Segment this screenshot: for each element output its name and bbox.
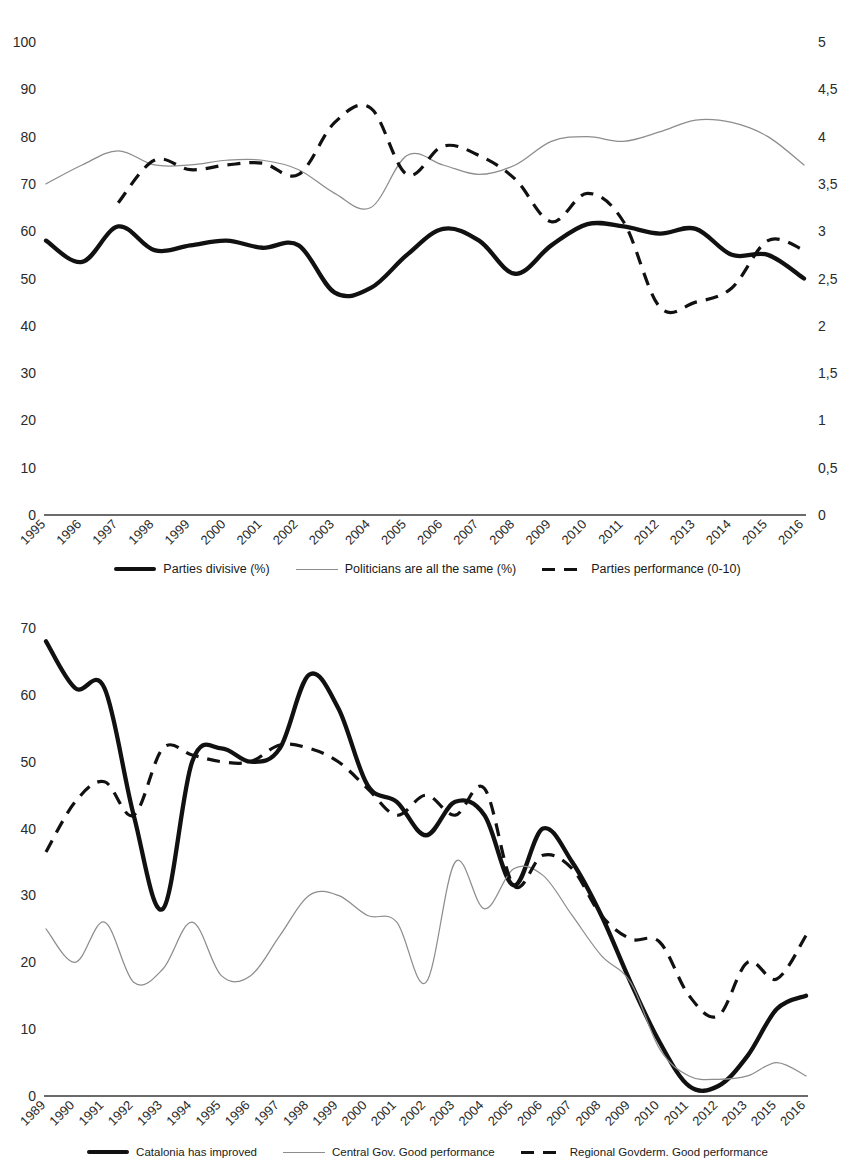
- x-axis-tick-label: 2003: [306, 517, 337, 548]
- series-line: [46, 641, 806, 1090]
- x-axis-tick-label: 2011: [595, 517, 625, 547]
- x-axis-tick-label: 1989: [17, 1098, 48, 1129]
- y-axis-tick-label: 20: [20, 954, 36, 970]
- x-axis-tick-label: 2000: [198, 517, 229, 548]
- x-axis-tick-label: 2011: [661, 1098, 691, 1128]
- series-line: [46, 860, 806, 1079]
- x-axis-tick-label: 2006: [414, 517, 445, 548]
- x-axis-tick-label: 1991: [76, 1098, 107, 1129]
- x-axis-tick-label: 2005: [378, 517, 409, 548]
- x-axis-tick-label: 2013: [667, 517, 698, 548]
- x-axis-tick-label: 1996: [222, 1098, 253, 1129]
- legend-swatch-dashed-icon: [521, 1151, 563, 1154]
- y2-axis-tick-label: 1: [818, 412, 826, 428]
- legend-item[interactable]: Politicians are all the same (%): [296, 562, 517, 576]
- party-attitudes-plot: 010203040506070809010000,511,522,533,544…: [0, 0, 855, 595]
- y-axis-tick-label: 70: [20, 176, 36, 192]
- x-axis-tick-label: 2001: [368, 1098, 399, 1129]
- x-axis-tick-label: 2010: [631, 1098, 662, 1129]
- x-axis-tick-label: 1997: [251, 1098, 282, 1129]
- x-axis-tick-label: 2012: [631, 517, 662, 548]
- legend-item[interactable]: Parties divisive (%): [114, 562, 269, 576]
- legend-item[interactable]: Regional Govderm. Good performance: [521, 1146, 768, 1158]
- legend-swatch-thin-icon: [296, 569, 338, 570]
- x-axis-tick-label: 1990: [46, 1098, 77, 1129]
- government-performance-legend: Catalonia has improvedCentral Gov. Good …: [0, 1146, 855, 1158]
- x-axis-tick-label: 2002: [270, 517, 301, 548]
- x-axis-tick-label: 2006: [514, 1098, 545, 1129]
- legend-label: Parties performance (0-10): [591, 562, 740, 576]
- x-axis-tick-label: 1996: [53, 517, 84, 548]
- legend-swatch-thick-icon: [87, 1150, 129, 1154]
- y2-axis-tick-label: 2: [818, 318, 826, 334]
- y-axis-tick-label: 50: [20, 271, 36, 287]
- legend-swatch-dashed-icon: [542, 568, 584, 571]
- x-axis-tick-label: 2010: [558, 517, 589, 548]
- party-attitudes-chart: 010203040506070809010000,511,522,533,544…: [0, 0, 855, 595]
- legend-label: Central Gov. Good performance: [332, 1146, 495, 1158]
- y-axis-tick-label: 10: [20, 1021, 36, 1037]
- y-axis-tick-label: 100: [13, 34, 37, 50]
- x-axis-tick-label: 2002: [397, 1098, 428, 1129]
- y2-axis-tick-label: 4,5: [818, 81, 838, 97]
- x-axis-tick-label: 1992: [105, 1098, 136, 1129]
- legend-swatch-thick-icon: [114, 567, 156, 571]
- x-axis-tick-label: 2008: [572, 1098, 603, 1129]
- y-axis-tick-label: 60: [20, 223, 36, 239]
- x-axis-tick-label: 1997: [89, 517, 120, 548]
- x-axis-tick-label: 1993: [134, 1098, 165, 1129]
- y2-axis-tick-label: 5: [818, 34, 826, 50]
- y2-axis-tick-label: 0,5: [818, 460, 838, 476]
- x-axis-tick-label: 1999: [161, 517, 192, 548]
- x-axis-tick-label: 1998: [280, 1098, 311, 1129]
- x-axis-tick-label: 2007: [450, 517, 481, 548]
- series-line: [46, 119, 804, 209]
- legend-label: Catalonia has improved: [136, 1146, 257, 1158]
- x-axis-tick-label: 2000: [339, 1098, 370, 1129]
- x-axis-tick-label: 2007: [543, 1098, 574, 1129]
- series-line: [46, 744, 806, 1017]
- y2-axis-tick-label: 3: [818, 223, 826, 239]
- y-axis-tick-label: 70: [20, 620, 36, 636]
- legend-item[interactable]: Catalonia has improved: [87, 1146, 257, 1158]
- legend-label: Regional Govderm. Good performance: [570, 1146, 768, 1158]
- y-axis-tick-label: 80: [20, 129, 36, 145]
- figure-page: 010203040506070809010000,511,522,533,544…: [0, 0, 855, 1173]
- x-axis-tick-label: 1995: [17, 517, 48, 548]
- series-line: [118, 105, 804, 313]
- x-axis-tick-label: 1999: [309, 1098, 340, 1129]
- legend-swatch-thin-icon: [283, 1152, 325, 1153]
- x-axis-tick-label: 2014: [703, 517, 734, 548]
- legend-item[interactable]: Parties performance (0-10): [542, 562, 740, 576]
- x-axis-tick-label: 2001: [234, 517, 265, 548]
- y2-axis-tick-label: 3,5: [818, 176, 838, 192]
- legend-label: Parties divisive (%): [163, 562, 269, 576]
- y2-axis-tick-label: 0: [818, 507, 826, 523]
- y2-axis-tick-label: 1,5: [818, 365, 838, 381]
- y-axis-tick-label: 10: [20, 460, 36, 476]
- y2-axis-tick-label: 4: [818, 129, 826, 145]
- y2-axis-tick-label: 2,5: [818, 271, 838, 287]
- legend-label: Politicians are all the same (%): [345, 562, 517, 576]
- x-axis-tick-label: 2008: [486, 517, 517, 548]
- x-axis-tick-label: 2016: [775, 517, 806, 548]
- x-axis-tick-label: 2009: [602, 1098, 633, 1129]
- x-axis-tick-label: 2003: [426, 1098, 457, 1129]
- government-performance-plot: 0102030405060701989199019911992199319941…: [0, 595, 855, 1173]
- y-axis-tick-label: 20: [20, 412, 36, 428]
- x-axis-tick-label: 2015: [748, 1098, 779, 1129]
- government-performance-chart: 0102030405060701989199019911992199319941…: [0, 595, 855, 1173]
- x-axis-tick-label: 2009: [522, 517, 553, 548]
- x-axis-tick-label: 1998: [125, 517, 156, 548]
- x-axis-tick-label: 2016: [777, 1098, 808, 1129]
- x-axis-tick-label: 2004: [342, 517, 373, 548]
- x-axis-tick-label: 2005: [485, 1098, 516, 1129]
- legend-item[interactable]: Central Gov. Good performance: [283, 1146, 495, 1158]
- x-axis-tick-label: 2015: [739, 517, 770, 548]
- y-axis-tick-label: 30: [20, 365, 36, 381]
- y-axis-tick-label: 40: [20, 318, 36, 334]
- y-axis-tick-label: 90: [20, 81, 36, 97]
- y-axis-tick-label: 30: [20, 887, 36, 903]
- party-attitudes-legend: Parties divisive (%)Politicians are all …: [0, 562, 855, 576]
- y-axis-tick-label: 40: [20, 821, 36, 837]
